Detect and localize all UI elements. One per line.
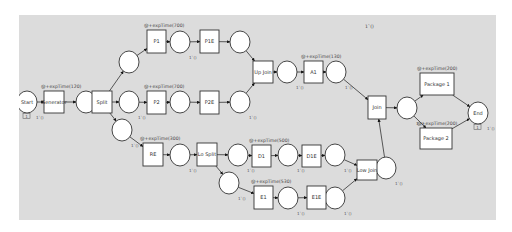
transition-label: Lo Split [198,151,216,158]
place-p-losplit-lo[interactable]: 1`() [219,172,246,201]
time-annotation: @+expTime(700) [144,84,185,89]
place-marking: 1`() [189,168,197,173]
place-marking: 1`() [247,168,255,173]
place-label: End [473,110,483,116]
transition-d1e[interactable]: D1E [302,145,321,167]
place-marking: 1`() [138,115,146,120]
place-marking: 1`() [487,126,495,131]
place-p-losplit-up[interactable]: 1`() [228,144,255,173]
transition-lowjoin[interactable]: Low Join [357,160,378,180]
transition-label: Up Join [254,69,272,76]
transition-label: Generator [41,99,67,105]
arc [238,187,254,193]
place-p-e1e[interactable]: 1`() [325,187,352,216]
transition-label: A1 [310,69,317,75]
place-marking: 1`() [395,181,403,186]
place-marking: 1`() [238,196,246,201]
arc [246,83,254,93]
transition-package2[interactable]: Package 2@+expTime(200) [417,121,458,149]
place-p-d1[interactable]: 1`() [278,144,305,173]
transition-label: D1E [306,153,316,159]
place-marking: 1`() [344,168,352,173]
transition-upjoin[interactable]: Up Join [253,61,273,83]
place-p-p1[interactable]: 1`() [170,31,197,60]
place-p-lojoin[interactable]: 1`() [376,157,403,186]
place-p-p1e[interactable] [230,31,250,53]
transition-losplit[interactable]: Lo Split [197,143,217,166]
place-p-p2[interactable] [170,91,190,113]
place-marking: 1`() [297,168,305,173]
transition-label: RE [150,151,157,157]
arc [137,49,147,56]
place-p-a1[interactable]: 1`() [326,61,353,90]
place-marking: 1`() [249,115,257,120]
transition-label: Join [371,104,381,110]
transition-p2e[interactable]: P2E [200,91,219,114]
transition-label: D1 [258,153,265,159]
token-count: 1 [476,125,479,130]
transition-label: E1 [260,194,266,200]
place-marking: 1`() [344,211,352,216]
time-annotation: @+expTime(300) [140,136,181,141]
place-p-re[interactable]: 1`() [170,144,197,173]
transition-label: E1E [312,194,322,200]
place-marking: 1`() [131,143,139,148]
transition-label: Package 2 [423,135,449,142]
time-annotation: @+expTime(130) [301,54,342,59]
place-marking: 1`() [297,211,305,216]
place-p-e1[interactable]: 1`() [278,187,305,216]
transition-label: Split [96,99,107,106]
arc [109,71,123,91]
place-label: Start [21,99,33,105]
arc [453,95,470,107]
arc [343,179,357,191]
time-annotation: @+expTime(530) [251,179,292,184]
arc [379,119,385,157]
transition-label: P1E [205,38,214,44]
time-annotation: @+expTime(500) [249,138,290,143]
place-marking: 1`() [189,55,197,60]
transition-e1e[interactable]: E1E [307,186,326,209]
transition-label: Low Join [357,167,378,173]
time-annotation: @+expTime(120) [41,84,82,89]
transition-label: Package 1 [424,81,450,88]
time-annotation: @+expTime(700) [144,23,185,28]
transition-p1e[interactable]: P1E [200,30,219,53]
transition-label: P2E [205,99,214,105]
petri-net-diagram: 1`() Start1`()11`()1`()1`()1`()1`()1`()1… [19,15,496,220]
time-annotation: @+expTime(200) [417,121,458,126]
place-marking: 1`() [296,85,304,90]
place-p-split-up[interactable] [119,51,139,73]
arc [216,166,223,174]
place-p-upjoin[interactable]: 1`() [277,61,304,90]
place-p-d1e[interactable]: 1`() [325,144,352,173]
time-annotation: @+expTime(200) [417,66,458,71]
transition-package1[interactable]: Package 1@+expTime(200) [417,66,458,95]
place-start[interactable]: Start1`()1 [19,91,44,120]
place-p-p2e[interactable]: 1`() [230,91,257,120]
transition-split[interactable]: Split [92,91,112,113]
place-end[interactable]: End1`()1 [468,102,495,131]
top-marking-label: 1`() [365,24,374,29]
arc [246,51,254,61]
arc [110,113,116,121]
place-marking: 1`() [345,85,353,90]
place-p-split-mid[interactable]: 1`() [119,91,146,120]
arc [415,95,423,101]
place-marking: 1`() [36,115,44,120]
arc [344,160,357,166]
transition-label: P2 [153,99,159,105]
transition-join[interactable]: Join [368,96,386,119]
place-p-split-lo[interactable]: 1`() [112,119,139,148]
token-count: 1 [25,114,28,119]
petri-net-canvas[interactable]: 1`() Start1`()11`()1`()1`()1`()1`()1`()1… [19,15,496,220]
transition-label: P1 [153,38,159,44]
transition-generator[interactable]: Generator@+expTime(120) [41,84,82,113]
